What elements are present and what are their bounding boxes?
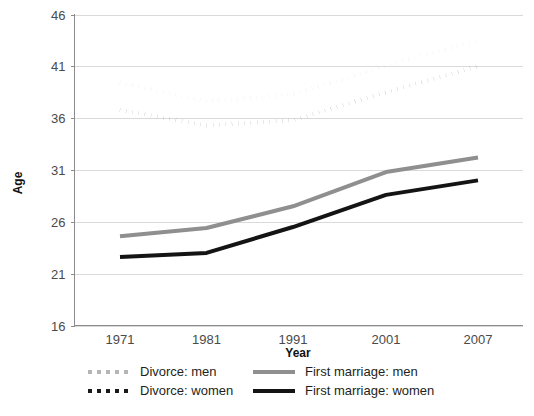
legend-label: Divorce: men — [140, 364, 217, 379]
y-tick-label: 46 — [51, 8, 65, 23]
x-tick-label: 1981 — [192, 332, 221, 347]
y-tick-label: 36 — [51, 111, 65, 126]
x-axis-title: Year — [285, 346, 311, 360]
chart-canvas: 16212631364146 19711981199120012007 Age … — [0, 0, 534, 416]
y-tick-group: 16212631364146 — [51, 8, 74, 334]
x-tick-label: 1971 — [106, 332, 135, 347]
y-tick-label: 26 — [51, 215, 65, 230]
x-tick-label: 2001 — [372, 332, 401, 347]
plot-background — [74, 14, 523, 325]
line-chart: 16212631364146 19711981199120012007 Age … — [0, 0, 534, 416]
y-tick-label: 31 — [51, 163, 65, 178]
legend-label: Divorce: women — [140, 383, 233, 398]
legend-label: First marriage: women — [305, 383, 434, 398]
y-axis-title: Age — [11, 171, 25, 194]
x-tick-label: 1991 — [279, 332, 308, 347]
y-tick-label: 16 — [51, 319, 65, 334]
x-tick-label: 2007 — [464, 332, 493, 347]
legend-label: First marriage: men — [305, 364, 418, 379]
x-tick-group: 19711981199120012007 — [106, 332, 493, 347]
y-tick-label: 41 — [51, 59, 65, 74]
y-tick-label: 21 — [51, 267, 65, 282]
chart-legend: Divorce: menFirst marriage: menDivorce: … — [88, 364, 434, 398]
